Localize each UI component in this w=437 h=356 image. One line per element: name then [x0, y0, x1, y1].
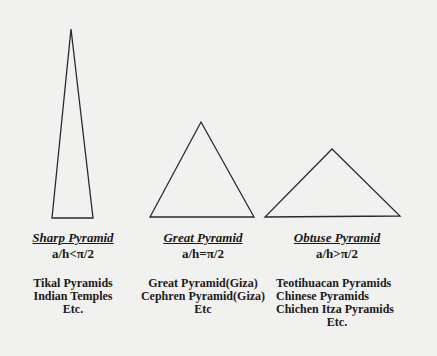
example-item: Etc — [138, 303, 268, 316]
sharp-pyramid-title: Sharp Pyramid — [8, 230, 138, 245]
great-pyramid-formula: a/h=π/2 — [138, 246, 268, 262]
great-pyramid-triangle — [150, 122, 254, 217]
obtuse-pyramid-column: Obtuse Pyramid a/h>π/2 Teotihuacan Pyram… — [262, 230, 412, 329]
obtuse-pyramid-triangle — [265, 149, 400, 217]
example-item: Etc. — [262, 316, 412, 329]
great-pyramid-column: Great Pyramid a/h=π/2 Great Pyramid(Giza… — [138, 230, 268, 316]
sharp-pyramid-formula: a/h<π/2 — [8, 246, 138, 262]
great-pyramid-title: Great Pyramid — [138, 230, 268, 245]
sharp-pyramid-examples: Tikal Pyramids Indian Temples Etc. — [8, 277, 138, 316]
obtuse-pyramid-title: Obtuse Pyramid — [262, 230, 412, 245]
sharp-pyramid-column: Sharp Pyramid a/h<π/2 Tikal Pyramids Ind… — [8, 230, 138, 316]
sharp-pyramid-triangle — [52, 29, 93, 218]
example-item: Etc. — [8, 303, 138, 316]
obtuse-pyramid-examples: Teotihuacan Pyramids Chinese Pyramids Ch… — [262, 277, 412, 329]
obtuse-pyramid-formula: a/h>π/2 — [262, 246, 412, 262]
great-pyramid-examples: Great Pyramid(Giza) Cephren Pyramid(Giza… — [138, 277, 268, 316]
